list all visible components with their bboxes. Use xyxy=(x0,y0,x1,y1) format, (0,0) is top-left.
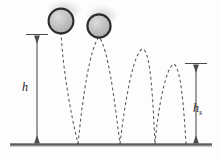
dimension-h xyxy=(26,35,48,144)
ground-group xyxy=(10,143,212,146)
ball-second xyxy=(87,14,110,37)
trajectory-segment-arc-2 xyxy=(120,49,155,144)
dimension-hs-arrowhead-bottom xyxy=(193,135,199,144)
trajectory-segment-arc-3 xyxy=(155,64,186,144)
bouncing-ball-figure: h hs xyxy=(0,0,220,160)
dimension-hs-arrowhead-top xyxy=(193,64,199,73)
dimension-label-hs-subscript: s xyxy=(199,108,202,117)
ball-first xyxy=(49,9,74,34)
dimension-label-h-text: h xyxy=(22,80,28,94)
trajectory-segment-arc-1 xyxy=(78,37,120,144)
trajectory-group xyxy=(61,32,186,144)
dimension-h-arrowhead-bottom xyxy=(34,135,40,144)
dimension-label-h: h xyxy=(22,81,28,93)
dimension-h-arrowhead-top xyxy=(34,35,40,44)
trajectory-segment-drop xyxy=(61,32,78,144)
dimension-label-hs: hs xyxy=(193,102,202,117)
ground-line xyxy=(10,143,212,146)
figure-canvas xyxy=(0,0,220,160)
